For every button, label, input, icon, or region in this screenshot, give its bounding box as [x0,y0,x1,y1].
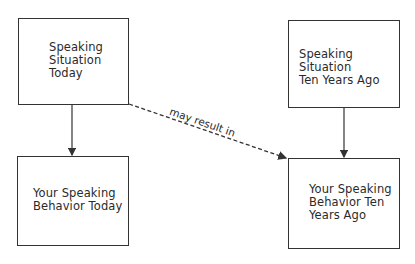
node-situation-ten-years-ago: Speaking Situation Ten Years Ago [288,20,400,108]
node-behavior-ten-years-ago: Your Speaking Behavior Ten Years Ago [288,158,400,249]
node-behavior-today: Your Speaking Behavior Today [17,156,129,246]
dashed-arrow-may-result-in [129,104,286,158]
node-label: Speaking Situation Ten Years Ago [299,48,399,87]
node-situation-today: Speaking Situation Today [18,18,129,105]
node-label: Your Speaking Behavior Today [33,187,122,213]
node-label: Speaking Situation Today [49,41,103,80]
node-label: Your Speaking Behavior Ten Years Ago [309,183,392,222]
